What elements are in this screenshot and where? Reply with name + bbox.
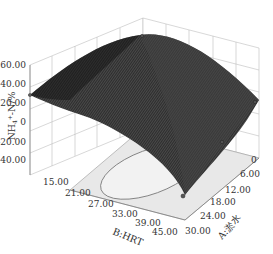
svg-text:18.00: 18.00 [210,197,236,207]
svg-text:-40.00: -40.00 [0,155,26,165]
svg-text:24.00: 24.00 [200,211,226,221]
svg-text:27.00: 27.00 [88,199,114,209]
svg-text:0: 0 [20,117,26,127]
svg-text:0: 0 [251,155,257,165]
z-axis-title: NH4+-N/% [6,91,18,140]
svg-text:40.00: 40.00 [0,79,26,89]
b-axis-title: B:HRT [111,226,145,248]
svg-text:12.00: 12.00 [225,185,251,195]
svg-text:21.00: 21.00 [65,188,91,198]
svg-text:30.00: 30.00 [185,226,211,236]
svg-text:60.00: 60.00 [0,60,26,70]
svg-text:15.00: 15.00 [43,177,69,187]
response-surface-chart: 60.00 40.00 20.00 0 -20.00 -40.00 NH4+-N… [0,0,273,254]
svg-text:6.00: 6.00 [240,169,260,179]
svg-text:45.00: 45.00 [152,227,178,237]
